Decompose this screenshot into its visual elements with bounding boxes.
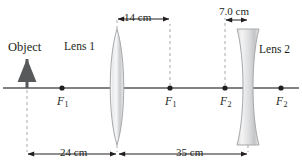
lens-1-shape: [110, 29, 124, 145]
lens-2-label: Lens 2: [259, 44, 290, 56]
diagram-canvas: [0, 0, 302, 168]
focal-point-subscript: 2: [228, 100, 232, 109]
object-label: Object: [8, 41, 41, 54]
focal-point-label-f2-left: F2: [220, 95, 231, 107]
lens-1-label: Lens 1: [64, 41, 95, 53]
dimension-label-35cm: 35 cm: [176, 147, 203, 158]
dimension-label-24cm: 24 cm: [60, 147, 87, 158]
focal-point-letter: F: [220, 95, 227, 107]
focal-point-letter: F: [57, 95, 64, 107]
focal-point-letter: F: [276, 95, 283, 107]
dimension-label-7cm: 7.0 cm: [219, 6, 249, 17]
focal-point-label-f1-right: F1: [165, 95, 176, 107]
lens-2-shape: [237, 29, 259, 145]
focal-point-dot-f2-left: [222, 85, 227, 90]
optics-ray-diagram: Object Lens 1 Lens 2 14 cm 7.0 cm 24 cm …: [0, 0, 302, 168]
focal-point-subscript: 2: [284, 100, 288, 109]
focal-point-dot-f1-right: [167, 85, 172, 90]
focal-point-dot-f2-right: [278, 85, 283, 90]
focal-point-subscript: 1: [173, 100, 177, 109]
focal-point-label-f1-left: F1: [57, 95, 68, 107]
focal-point-label-f2-right: F2: [276, 95, 287, 107]
focal-point-subscript: 1: [65, 100, 69, 109]
focal-point-letter: F: [165, 95, 172, 107]
focal-point-dot-f1-left: [59, 85, 64, 90]
dimension-label-14cm: 14 cm: [124, 12, 151, 23]
